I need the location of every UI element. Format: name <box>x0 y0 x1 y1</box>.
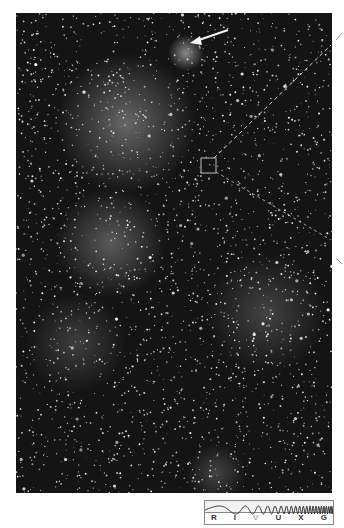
band-label-x: X <box>298 513 303 523</box>
wave-graphic <box>205 501 333 513</box>
edge-tick-right <box>336 258 342 264</box>
band-label-r: R <box>211 513 217 523</box>
band-label-v: V <box>253 513 258 523</box>
wavelength-labels: R I V U X G <box>205 513 333 523</box>
band-label-u: U <box>276 513 282 523</box>
band-label-g: G <box>321 513 327 523</box>
wavelength-scale: R I V U X G <box>204 500 334 525</box>
band-label-i: I <box>234 513 236 523</box>
star-field-photo <box>16 13 332 493</box>
edge-tick-top <box>336 33 342 40</box>
sky-image <box>16 13 332 493</box>
